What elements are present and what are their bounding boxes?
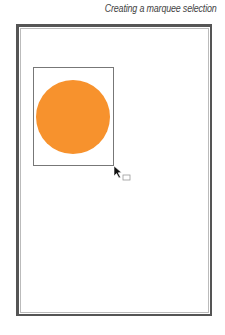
marquee-selection-rectangle — [33, 67, 114, 166]
figure-caption: Creating a marquee selection — [105, 2, 217, 14]
marquee-cursor-icon — [113, 165, 135, 187]
